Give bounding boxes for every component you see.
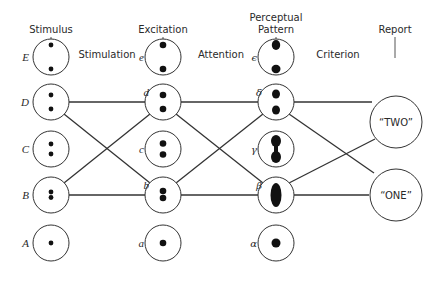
excitation-node-e: e <box>139 39 181 75</box>
stage-stimulation: Stimulation <box>78 49 135 60</box>
label-d: d <box>144 86 150 98</box>
header-perceptual: Perceptual <box>250 12 303 23</box>
label-c: c <box>139 143 144 155</box>
connections <box>64 102 375 195</box>
pattern-node-alpha: α <box>250 225 294 261</box>
label-C: C <box>22 143 30 155</box>
label-B: B <box>22 189 29 201</box>
pattern-node-beta: β <box>255 177 294 213</box>
stage-attention: Attention <box>198 49 244 60</box>
header-stimulus: Stimulus <box>29 24 72 35</box>
pattern-node-epsilon: ϵ <box>251 39 294 75</box>
report-node-one: “ONE” <box>370 169 422 221</box>
perception-model-diagram: Stimulus Excitation Perceptual Pattern R… <box>0 0 443 302</box>
report-one-label: “ONE” <box>380 190 412 201</box>
stimulus-node-c: C <box>22 131 69 167</box>
label-beta: β <box>255 180 262 191</box>
label-a: a <box>139 237 145 249</box>
label-E: E <box>21 51 29 63</box>
label-b: b <box>144 179 150 191</box>
label-e: e <box>139 51 144 63</box>
header-excitation: Excitation <box>138 24 188 35</box>
label-epsilon: ϵ <box>251 52 257 63</box>
stimulus-node-d: D <box>20 84 69 120</box>
label-gamma: γ <box>251 144 257 155</box>
stage-criterion: Criterion <box>316 49 359 60</box>
report-node-two: “TWO” <box>370 96 422 148</box>
excitation-node-a: a <box>139 225 182 261</box>
stimulus-node-a: A <box>21 225 69 261</box>
label-alpha: α <box>250 238 257 249</box>
stimulus-node-e: E <box>21 39 69 75</box>
excitation-node-c: c <box>139 131 181 167</box>
report-two-label: “TWO” <box>379 117 413 128</box>
label-A: A <box>21 237 29 249</box>
header-report: Report <box>378 24 411 35</box>
pattern-node-gamma: γ <box>251 131 294 167</box>
label-delta: δ <box>256 87 262 98</box>
label-D: D <box>20 96 29 108</box>
header-pattern: Pattern <box>258 24 294 35</box>
stimulus-node-b: B <box>22 177 69 213</box>
